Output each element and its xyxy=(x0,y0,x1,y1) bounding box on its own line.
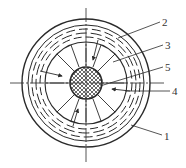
leader-3 xyxy=(113,45,163,62)
arrow-left xyxy=(40,71,62,76)
leader-1 xyxy=(131,125,162,135)
leader-2 xyxy=(118,22,160,38)
label-3: 3 xyxy=(165,40,171,51)
hatched-core xyxy=(70,67,102,99)
label-2: 2 xyxy=(162,17,168,28)
label-4: 4 xyxy=(172,86,178,97)
label-5: 5 xyxy=(165,62,171,73)
cable-cross-section-diagram xyxy=(0,0,186,168)
label-1: 1 xyxy=(164,131,170,142)
